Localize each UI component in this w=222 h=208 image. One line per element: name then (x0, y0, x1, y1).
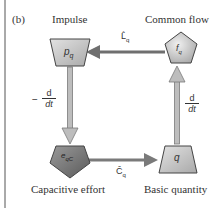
neg-derivative-denominator: dt (42, 99, 56, 109)
derivative-numerator: d (185, 93, 199, 103)
panel-label: (b) (12, 13, 25, 25)
common-flow-symbol: fq (176, 43, 182, 55)
arrow-impulse-to-capacitive-effort (62, 67, 78, 144)
common-flow-title: Common flow (145, 13, 209, 25)
arrow-common-flow-to-impulse (86, 45, 165, 59)
edge-label-neg-derivative: d dt (42, 88, 56, 109)
capacitive-effort-symbol: eqC (61, 151, 73, 162)
edge-label-neg-derivative-prefix: − (32, 94, 38, 105)
edge-label-cq: Ĉq (116, 166, 126, 178)
impulse-title: Impulse (52, 13, 87, 25)
capacitive-effort-title: Capacitive effort (31, 183, 105, 195)
capacitive-effort-symbol-sub: qC (65, 156, 73, 162)
impulse-symbol-sub: q (70, 52, 74, 59)
neg-derivative-numerator: d (42, 88, 56, 98)
edge-label-lq-sub: q (126, 37, 129, 43)
arrow-capacitive-effort-to-basic-quantity (86, 153, 158, 167)
edge-label-derivative: d dt (185, 93, 199, 114)
basic-quantity-symbol: q (174, 152, 180, 163)
basic-quantity-title: Basic quantity (144, 183, 207, 195)
arrow-basic-quantity-to-common-flow (169, 66, 185, 144)
diagram-frame: (b) Impulse Common flow Capacitive effor… (0, 0, 222, 208)
common-flow-symbol-sub: q (179, 49, 182, 55)
derivative-denominator: dt (185, 104, 199, 114)
impulse-symbol: pq (64, 46, 73, 59)
edge-label-lq: L̂q (121, 31, 129, 43)
edge-label-cq-sub: q (123, 172, 126, 178)
